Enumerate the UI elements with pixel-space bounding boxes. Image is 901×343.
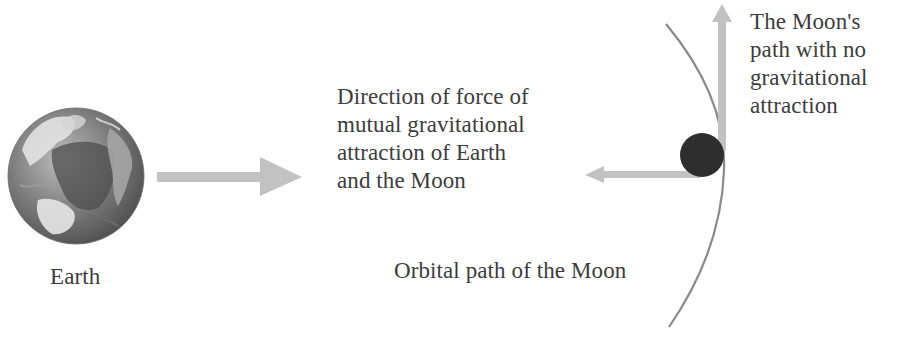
gravity-diagram: Earth Direction of force of mutual gravi… [0, 0, 901, 343]
moon-path-no-gravity-label: The Moon's path with no gravitational at… [750, 8, 900, 120]
orbital-path-label: Orbital path of the Moon [394, 257, 626, 285]
inertia-path-arrow [712, 4, 732, 150]
earth-label: Earth [50, 263, 100, 291]
gravity-force-arrow [585, 166, 700, 183]
moon-icon [680, 133, 724, 177]
force-direction-label: Direction of force of mutual gravitation… [337, 83, 597, 195]
earth-force-arrow [157, 157, 302, 196]
earth-globe-icon [8, 108, 144, 244]
